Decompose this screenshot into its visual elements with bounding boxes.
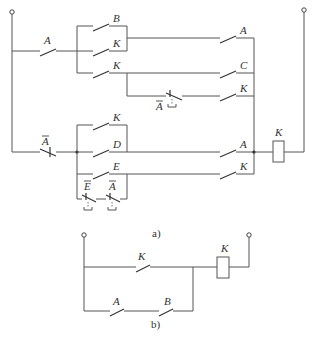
label-K3: K <box>239 82 248 94</box>
label-A-lower-right: A <box>239 138 247 150</box>
right-terminal-icon <box>302 8 306 12</box>
pushbutton-icon <box>108 207 116 210</box>
label-E: E <box>112 160 120 172</box>
pushbutton-icon <box>84 207 92 210</box>
left-terminal-b-icon <box>82 233 86 237</box>
label-K-lower: K <box>112 111 121 123</box>
pushbutton-icon <box>168 104 176 107</box>
switch-K1-no-icon <box>93 49 109 56</box>
figure-a: A B K A K C A <box>10 8 306 240</box>
label-A-b: A <box>112 295 120 307</box>
switch-K-b-no-icon <box>136 265 150 272</box>
switch-K-lower-no-icon <box>93 123 109 130</box>
label-K1: K <box>112 37 121 49</box>
label-Ebar: E <box>83 180 91 192</box>
label-Abar-nc2: A <box>108 180 116 192</box>
label-coil-K: K <box>274 126 283 138</box>
label-Abar-upper: A <box>155 100 163 112</box>
switch-A-no-icon <box>40 49 56 56</box>
label-B-b: B <box>164 295 171 307</box>
figure-b: K K A B b) <box>82 233 251 331</box>
relay-ladder-diagram: A B K A K C A <box>0 0 313 340</box>
switch-K-lower-right-no-icon <box>220 172 236 179</box>
label-D: D <box>112 138 121 150</box>
label-A-top: A <box>43 34 51 46</box>
switch-Abar-lower-nc-icon <box>40 149 56 156</box>
switch-A-b-no-icon <box>110 309 124 316</box>
switch-C-no-icon <box>220 71 236 78</box>
label-coil-K-b: K <box>220 242 229 254</box>
switch-K2-no-icon <box>93 71 109 78</box>
label-K-lower-right: K <box>239 160 248 172</box>
label-K2: K <box>112 59 121 71</box>
switch-D-no-icon <box>93 150 109 157</box>
caption-a: a) <box>152 227 161 240</box>
left-terminal-icon <box>10 10 14 14</box>
switch-B-no-icon <box>93 24 109 31</box>
switch-A-right-no-icon <box>220 36 236 43</box>
switch-E-no-icon <box>93 172 109 179</box>
caption-b: b) <box>151 318 161 331</box>
switch-K3-no-icon <box>220 94 236 101</box>
right-terminal-b-icon <box>247 233 251 237</box>
switch-Ebar-nc-icon <box>82 195 96 202</box>
relay-coil-K-icon <box>273 141 284 162</box>
switch-Abar-nc-icon <box>166 93 182 100</box>
label-B: B <box>113 12 120 24</box>
switch-A-lower-right-no-icon <box>220 150 236 157</box>
switch-B-b-no-icon <box>159 309 173 316</box>
label-C: C <box>240 59 248 71</box>
label-A-right: A <box>239 24 247 36</box>
label-Abar-lower: A <box>41 135 49 147</box>
relay-coil-K-b-icon <box>217 257 229 278</box>
switch-Abar-nc2-icon <box>106 195 120 202</box>
label-K-b: K <box>137 250 146 262</box>
